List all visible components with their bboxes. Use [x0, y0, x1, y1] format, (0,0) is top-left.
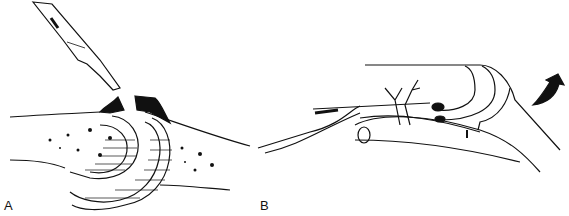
panel-b-drawing	[258, 65, 564, 172]
panel-label-a: A	[4, 198, 13, 213]
panel-label-b: B	[260, 198, 269, 213]
scalpel-icon	[33, 2, 120, 90]
figure-canvas	[0, 0, 569, 216]
curved-arrow-icon	[533, 74, 564, 105]
panel-a-drawing	[10, 2, 250, 210]
